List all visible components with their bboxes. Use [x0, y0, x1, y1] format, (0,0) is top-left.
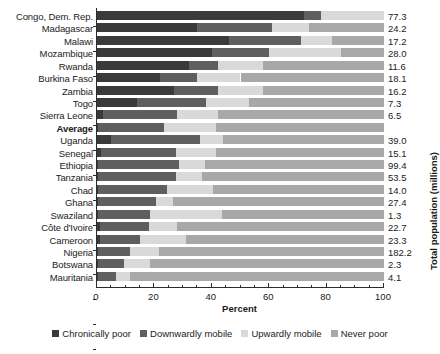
bar-row: Mozambique28.0: [0, 48, 440, 59]
bar-segment: [205, 160, 384, 169]
x-axis-tick: [153, 283, 154, 287]
legend-label: Chronically poor: [62, 328, 131, 339]
population-value: 24.2: [388, 23, 407, 34]
x-axis-tick-label: 20: [148, 291, 159, 302]
category-label: Average: [1, 123, 93, 134]
bar-segment: [177, 222, 384, 231]
bar-segment: [218, 110, 384, 119]
population-value: 11.6: [388, 61, 406, 72]
bar-segment: [206, 98, 249, 107]
stacked-bar: [97, 272, 384, 281]
population-value: 28.0: [388, 48, 407, 59]
x-axis-tick-label: 0: [93, 291, 98, 302]
stacked-bar: [97, 185, 384, 194]
category-label: Mauritania: [1, 272, 93, 283]
legend-item[interactable]: Upwardly mobile: [241, 328, 321, 339]
bar-segment: [186, 235, 384, 244]
bar-segment: [97, 98, 137, 107]
bar-segment: [98, 247, 130, 256]
stacked-bar: [97, 11, 384, 20]
x-axis-tick: [311, 285, 312, 287]
legend-item[interactable]: Chronically poor: [52, 328, 131, 339]
x-axis-tick: [354, 285, 355, 287]
x-axis-tick-label: 60: [263, 291, 274, 302]
stacked-bar: [97, 36, 384, 45]
stacked-bar: [97, 110, 384, 119]
bar-segment: [304, 11, 321, 20]
stacked-bar: [97, 172, 384, 181]
population-value: 27.4: [388, 197, 407, 208]
category-label: Togo: [1, 98, 93, 109]
legend-swatch-icon: [241, 330, 248, 337]
population-value: 7.3: [388, 98, 401, 109]
bar-segment: [341, 48, 384, 57]
bar-segment: [177, 110, 217, 119]
bar-segment: [167, 185, 213, 194]
bar-segment: [97, 11, 304, 20]
x-axis-line: [96, 287, 384, 288]
stacked-bar: [97, 61, 384, 70]
stacked-bar: [97, 86, 384, 95]
bar-segment: [130, 247, 159, 256]
bar-segment: [218, 86, 264, 95]
category-label: Chad: [1, 185, 93, 196]
bar-segment: [179, 160, 205, 169]
population-value: 77.3: [388, 11, 407, 22]
chart-legend: Chronically poorDownwardly mobileUpwardl…: [0, 328, 440, 339]
bar-segment: [164, 123, 216, 132]
bar-segment: [98, 172, 175, 181]
bar-segment: [116, 272, 130, 281]
bar-segment: [332, 36, 384, 45]
bar-segment: [249, 98, 384, 107]
bar-segment: [97, 36, 229, 45]
x-axis-tick: [240, 285, 241, 287]
bar-segment: [98, 123, 164, 132]
stacked-bar: [97, 235, 384, 244]
x-axis-tick: [254, 285, 255, 287]
population-value: 16.2: [388, 86, 407, 97]
x-axis-tick: [340, 285, 341, 287]
category-label: Madagascar: [1, 23, 93, 34]
x-axis-tick: [182, 285, 183, 287]
bar-segment: [124, 259, 150, 268]
bar-segment: [159, 247, 384, 256]
bar-segment: [216, 148, 384, 157]
bar-segment: [111, 135, 200, 144]
bar-row: Burkina Faso18.1: [0, 73, 440, 84]
stacked-bar: [97, 98, 384, 107]
category-label: Rwanda: [1, 61, 93, 72]
bar-segment: [140, 235, 186, 244]
legend-swatch-icon: [140, 330, 147, 337]
bar-segment: [212, 48, 269, 57]
population-value: 18.1: [388, 73, 407, 84]
bar-row: Zambia16.2: [0, 86, 440, 97]
bar-row: Botswana2.3: [0, 259, 440, 270]
category-label: Mozambique: [1, 48, 93, 59]
population-value: 15.1: [388, 148, 407, 159]
stacked-bar: [97, 222, 384, 231]
bar-segment: [301, 36, 333, 45]
bar-segment: [150, 210, 222, 219]
category-label: Uganda: [1, 135, 93, 146]
stacked-bar: [97, 197, 384, 206]
population-value: 1.3: [388, 210, 401, 221]
legend-label: Never poor: [341, 328, 388, 339]
bar-row: Sierra Leone6.5: [0, 110, 440, 121]
bar-segment: [97, 135, 111, 144]
stacked-bar: [97, 48, 384, 57]
bar-segment: [130, 272, 384, 281]
bar-segment: [269, 48, 341, 57]
bar-segment: [176, 172, 202, 181]
category-label: Zambia: [1, 86, 93, 97]
category-label: Congo, Dem. Rep.: [1, 11, 93, 22]
legend-item[interactable]: Downwardly mobile: [140, 328, 232, 339]
population-value: 4.1: [388, 272, 401, 283]
x-axis-tick: [297, 285, 298, 287]
bar-row: Tanzania53.5: [0, 172, 440, 183]
category-label: Swaziland: [1, 210, 93, 221]
bar-row: Rwanda11.6: [0, 61, 440, 72]
category-label: Botswana: [1, 259, 93, 270]
bar-row: Ghana27.4: [0, 197, 440, 208]
legend-item[interactable]: Never poor: [331, 328, 388, 339]
x-axis-tick: [268, 283, 269, 287]
